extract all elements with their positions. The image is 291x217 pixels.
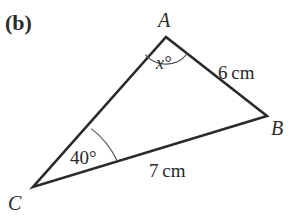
side-label-cb: 7 cm xyxy=(149,160,186,181)
vertex-label-c: C xyxy=(8,192,22,214)
vertex-label-b: B xyxy=(271,117,283,139)
angle-label-a: x° xyxy=(155,53,171,73)
vertex-label-a: A xyxy=(156,9,171,31)
triangle-diagram: (b) A B C x° 40° 6 cm 7 cm xyxy=(0,0,291,217)
angle-label-c: 40° xyxy=(70,147,97,168)
side-label-ab: 6 cm xyxy=(218,62,255,83)
part-label: (b) xyxy=(5,10,32,35)
